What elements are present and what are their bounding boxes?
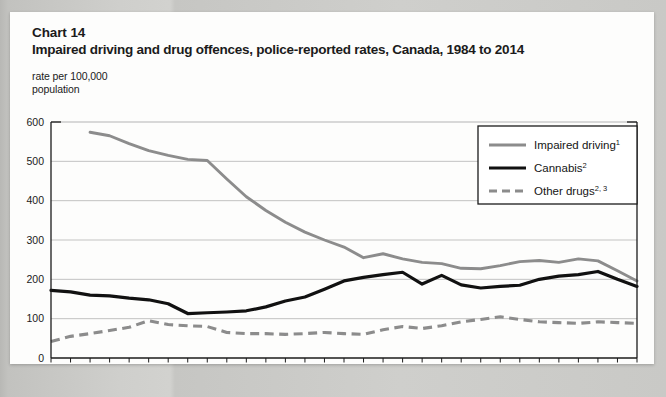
- y-tick-label: 500: [26, 155, 44, 167]
- series-line-cannabis: [51, 271, 637, 313]
- line-chart: 0100200300400500600 19841987199019931996…: [10, 12, 654, 364]
- chart-plot-area: 0100200300400500600 19841987199019931996…: [10, 12, 654, 364]
- y-tick-label: 600: [26, 116, 44, 128]
- x-axis-ticks: 1984198719901993199619992002200520082011…: [39, 358, 649, 364]
- legend-label-cannabis: Cannabis2: [534, 161, 587, 174]
- y-tick-label: 300: [26, 234, 44, 246]
- y-tick-label: 100: [26, 312, 44, 324]
- y-tick-label: 0: [38, 352, 44, 364]
- y-tick-label: 200: [26, 273, 44, 285]
- legend-label-impaired-driving: Impaired driving1: [534, 138, 620, 151]
- chart-legend: Impaired driving1Cannabis2Other drugs2, …: [478, 126, 637, 204]
- document-page: Chart 14 Impaired driving and drug offen…: [10, 12, 654, 364]
- series-line-other-drugs: [51, 317, 637, 342]
- y-tick-label: 400: [26, 194, 44, 206]
- y-axis-ticks: 0100200300400500600: [26, 116, 44, 364]
